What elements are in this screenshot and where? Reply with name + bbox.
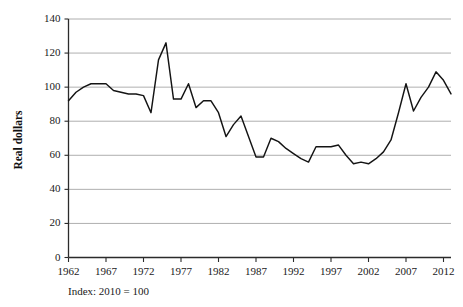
chart-canvas: 020406080100120140 196219671972197719821… bbox=[0, 0, 463, 307]
x-tick-label-group: 1962196719721977198219871992199720022007… bbox=[58, 265, 455, 277]
y-axis: 020406080100120140 bbox=[44, 12, 69, 263]
y-tick-label: 120 bbox=[44, 46, 61, 58]
x-tick-label: 2012 bbox=[433, 265, 455, 277]
y-tick-label: 20 bbox=[50, 216, 62, 228]
data-series-line bbox=[69, 43, 452, 164]
x-tick-label: 1972 bbox=[133, 265, 155, 277]
x-tick-label: 1992 bbox=[283, 265, 305, 277]
x-tick-label: 2002 bbox=[358, 265, 380, 277]
y-tick-label-group: 020406080100120140 bbox=[44, 12, 61, 263]
y-tick-label: 40 bbox=[50, 182, 62, 194]
x-tick-label: 1962 bbox=[58, 265, 80, 277]
x-axis: 1962196719721977198219871992199720022007… bbox=[58, 258, 455, 277]
x-tick-label: 1967 bbox=[95, 265, 118, 277]
y-tick-label: 100 bbox=[44, 80, 61, 92]
line-chart-figure: 020406080100120140 196219671972197719821… bbox=[0, 0, 463, 307]
x-tick-marks bbox=[69, 258, 444, 263]
y-tick-label: 80 bbox=[50, 114, 62, 126]
gridlines-group bbox=[69, 19, 452, 223]
x-tick-label: 1982 bbox=[208, 265, 230, 277]
y-tick-label: 0 bbox=[55, 251, 61, 263]
x-tick-label: 1987 bbox=[245, 265, 268, 277]
y-tick-label: 140 bbox=[44, 12, 61, 24]
y-axis-title: Real dollars bbox=[12, 110, 24, 170]
x-tick-label: 2007 bbox=[395, 265, 418, 277]
x-tick-label: 1997 bbox=[320, 265, 343, 277]
y-tick-label: 60 bbox=[50, 148, 62, 160]
x-tick-label: 1977 bbox=[170, 265, 193, 277]
index-footnote: Index: 2010 = 100 bbox=[68, 285, 150, 297]
